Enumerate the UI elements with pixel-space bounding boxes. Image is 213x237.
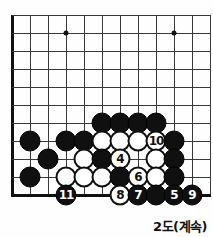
grid-line-vertical (192, 15, 193, 197)
grid-line-horizontal (12, 33, 211, 34)
stone-move-number: 5 (170, 189, 177, 201)
stone-move-number: 7 (134, 189, 141, 201)
grid-line-horizontal (12, 87, 211, 88)
grid-line-horizontal (12, 69, 211, 70)
black-stone-9[interactable]: 9 (182, 185, 203, 206)
stone-move-number: 6 (134, 171, 141, 183)
grid-line-vertical (210, 15, 211, 197)
black-stone[interactable] (20, 131, 41, 152)
stone-move-number: 8 (116, 189, 123, 201)
black-stone-11[interactable]: 11 (56, 185, 77, 206)
stone-move-number: 10 (149, 135, 164, 147)
grid-line-vertical (48, 15, 49, 197)
star-point (172, 31, 177, 36)
board-edge-left (11, 15, 14, 197)
grid-line-horizontal (12, 51, 211, 52)
stone-move-number: 9 (188, 189, 195, 201)
grid-line-horizontal (12, 15, 211, 16)
star-point (64, 31, 69, 36)
black-stone[interactable] (38, 149, 59, 170)
figure-caption: 2도(계속) (153, 216, 207, 235)
stone-move-number: 4 (116, 153, 123, 165)
black-stone[interactable] (20, 167, 41, 188)
grid-line-horizontal (12, 105, 211, 106)
go-board-figure: 1046118759 2도(계속) (0, 0, 213, 237)
stone-move-number: 11 (59, 189, 74, 201)
